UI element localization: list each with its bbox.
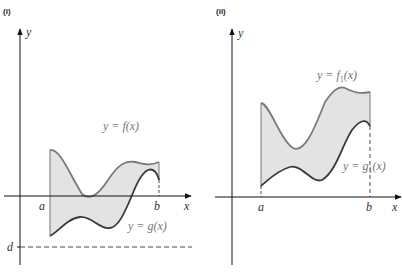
tick-d-i: d [7, 240, 14, 254]
y-axis-label-ii: y [237, 26, 244, 40]
x-axis-label-i: x [183, 199, 190, 213]
label-g1-tail: (x) [372, 159, 385, 173]
label-g1-main: y = g [342, 159, 368, 173]
tick-b-i: b [154, 199, 160, 213]
tick-b-ii: b [366, 200, 372, 214]
label-f1: y = f1(x) [316, 68, 357, 84]
panel-ii: (ii) y x a b y = f1(x) y = g1(x) [215, 7, 401, 265]
label-f1-main: y = f [316, 68, 341, 82]
figure-canvas: (i) y x a b d y = f(x) y = g(x) (ii) [0, 0, 402, 272]
panel-i: (i) y x a b d y = f(x) y = g(x) [3, 7, 192, 265]
x-axis-label-ii: x [391, 200, 398, 214]
tick-a-i: a [39, 199, 45, 213]
label-f: y = f(x) [102, 119, 139, 133]
label-f1-tail: (x) [344, 68, 357, 82]
panel-ii-label: (ii) [216, 7, 226, 16]
label-g1: y = g1(x) [342, 159, 386, 175]
panel-i-label: (i) [3, 7, 11, 16]
y-axis-label-i: y [25, 25, 32, 39]
label-g: y = g(x) [127, 219, 167, 233]
tick-a-ii: a [258, 200, 264, 214]
